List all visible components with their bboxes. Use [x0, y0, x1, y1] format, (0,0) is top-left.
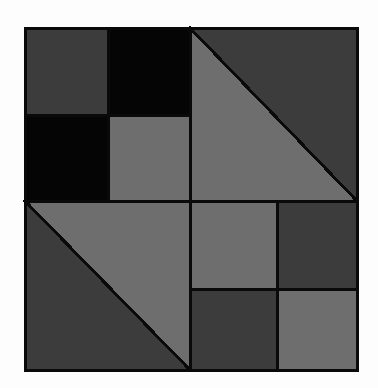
br-cell-bottom-right	[277, 289, 357, 370]
quadrant-bottom-right	[190, 201, 357, 370]
artwork-canvas: Geometric Quilt Block	[0, 0, 378, 388]
br-cell-top-right	[277, 201, 357, 289]
tl-cell-bottom-right	[108, 115, 190, 201]
tl-cell-bottom-left	[25, 115, 108, 201]
br-cell-bottom-left	[190, 289, 277, 370]
br-cell-top-left	[190, 201, 277, 289]
tl-cell-top-right	[108, 28, 190, 115]
quilt-block-pattern	[0, 0, 378, 388]
tl-cell-top-left	[25, 28, 108, 115]
